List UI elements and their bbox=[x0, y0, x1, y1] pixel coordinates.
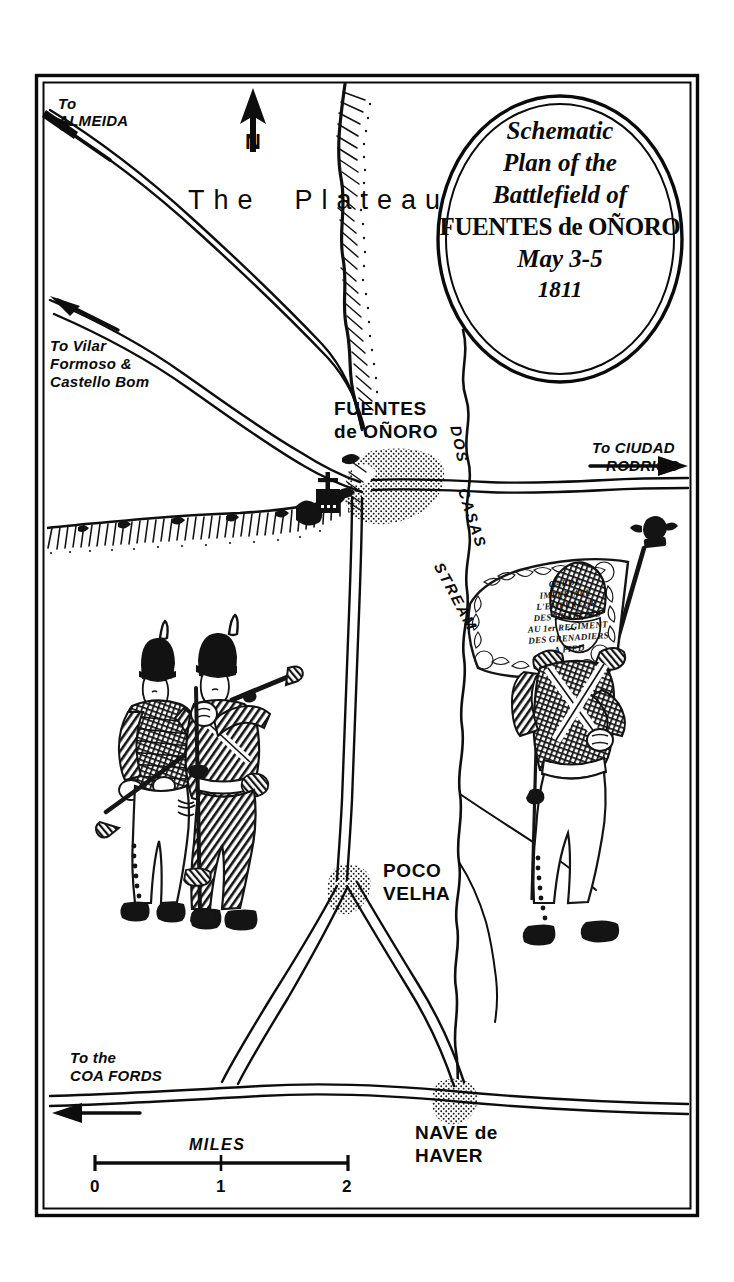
cartouche-title-block: Schematic Plan of the Battlefield of FUE… bbox=[428, 118, 692, 301]
road-label-to-almeida-line1: To bbox=[58, 96, 76, 113]
road-label-to-almeida-line2: ALMEIDA bbox=[58, 113, 128, 130]
compass-north-label: N bbox=[245, 130, 261, 155]
settlement-label-nave-de-haver-line1: NAVE de bbox=[415, 1122, 498, 1143]
cartouche-line-1: Schematic bbox=[428, 118, 692, 143]
cartouche-line-2: Plan of the bbox=[428, 150, 692, 175]
plateau-label: The Plateau bbox=[188, 185, 449, 215]
british-infantry-pair-figure bbox=[96, 615, 303, 931]
imperial-eagle-finial bbox=[630, 516, 678, 548]
arrow-to-vilar-formoso bbox=[50, 296, 118, 330]
cartouche-line-5: May 3-5 bbox=[428, 246, 692, 271]
escarpment-hachures bbox=[47, 486, 362, 554]
road-label-to-vilar-formoso-line3: Castello Bom bbox=[50, 374, 149, 391]
settlement-label-poco-velha-line1: POCO bbox=[383, 860, 441, 881]
map-canvas: Schematic Plan of the Battlefield of FUE… bbox=[0, 0, 734, 1282]
scale-bar-title: MILES bbox=[189, 1136, 245, 1154]
settlement-label-nave-de-haver-line2: HAVER bbox=[415, 1145, 483, 1166]
scale-tick-0: 0 bbox=[90, 1177, 99, 1196]
settlement-label-fuentes-line2: de OÑORO bbox=[334, 421, 438, 442]
road-label-to-ciudad-rodrigo-line1: To CIUDAD bbox=[592, 440, 675, 457]
road-label-to-coa-fords-line2: COA FORDS bbox=[70, 1068, 162, 1085]
road-label-to-ciudad-rodrigo-line2: RODRIGO bbox=[606, 458, 680, 475]
settlement-label-poco-velha-line2: VELHA bbox=[383, 883, 450, 904]
road-label-to-coa-fords-line1: To the bbox=[70, 1050, 116, 1067]
cartouche-line-3: Battlefield of bbox=[428, 182, 692, 207]
british-soldier-right bbox=[184, 615, 303, 931]
settlement-label-fuentes-line1: FUENTES bbox=[334, 398, 427, 419]
road-label-to-vilar-formoso-line1: To Vilar bbox=[50, 338, 106, 355]
scale-tick-1: 1 bbox=[216, 1177, 225, 1196]
cartouche-line-6: 1811 bbox=[428, 278, 692, 301]
scale-tick-2: 2 bbox=[342, 1177, 351, 1196]
cartouche-line-4: FUENTES de OÑORO bbox=[428, 214, 692, 239]
scale-bar-graphic bbox=[95, 1155, 348, 1171]
flag-inscription: GARDE IMPERIALE L'EMPEREUR DES FRANÇAIS … bbox=[510, 574, 623, 658]
road-label-to-vilar-formoso-line2: Formoso & bbox=[50, 356, 132, 373]
